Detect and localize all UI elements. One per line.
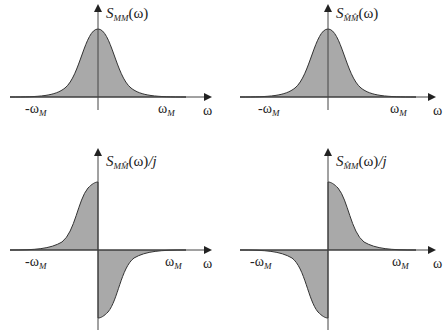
neg-omega-m-label: -ωM <box>25 101 47 118</box>
panel-title: SMM(ω) <box>106 5 148 23</box>
panel-title: SM̂M̂(ω) <box>336 5 378 23</box>
omega-m-label: ωM <box>158 101 175 118</box>
panel-title: SMM̂(ω)/j <box>106 153 157 171</box>
positive-lobe-fill <box>10 182 98 250</box>
panel-title: SM̂M(ω)/j <box>336 153 387 171</box>
neg-omega-m-label: -ωM <box>25 254 47 271</box>
panel-top-right: SM̂M̂(ω) -ωM ωM ω <box>240 5 442 118</box>
panel-bottom-left: SMM̂(ω)/j -ωM ωM ω <box>10 150 212 330</box>
omega-m-label: ωM <box>390 101 407 118</box>
omega-axis-label: ω <box>203 256 212 271</box>
omega-axis-label: ω <box>433 256 442 271</box>
omega-m-label: ωM <box>392 254 409 271</box>
omega-axis-label: ω <box>433 103 442 118</box>
neg-omega-m-label: -ωM <box>250 254 272 271</box>
panel-bottom-right: SM̂M(ω)/j -ωM ωM ω <box>240 150 442 330</box>
neg-omega-m-label: -ωM <box>258 101 280 118</box>
omega-m-label: ωM <box>165 254 182 271</box>
omega-axis-label: ω <box>203 103 212 118</box>
positive-lobe-fill <box>328 182 416 250</box>
panel-top-left: SMM(ω) -ωM ωM ω <box>10 5 212 118</box>
spectral-density-diagram: SMM(ω) -ωM ωM ω SM̂M̂(ω) -ωM ωM ω SMM̂(ω… <box>0 0 446 336</box>
